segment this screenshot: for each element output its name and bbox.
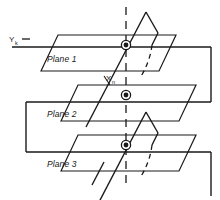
- plane-3-label: Plane 3: [47, 159, 77, 169]
- node-plane-1: [121, 40, 130, 49]
- node-plane-2: [121, 90, 130, 99]
- plane-1-parallelogram: [41, 35, 176, 71]
- plane-stack-diagram: Y k X n Plane 1 Plane 2 Plane 3: [0, 0, 220, 200]
- plane-2-label: Plane 2: [47, 109, 77, 119]
- figure-container: Y k X n Plane 1 Plane 2 Plane 3: [0, 0, 220, 200]
- vertical-plane-top-cap: [146, 12, 158, 33]
- plane-1-label: Plane 1: [47, 54, 77, 64]
- x-node-subscript: n: [112, 79, 115, 85]
- y-axis-subscript: k: [15, 40, 18, 46]
- plane-1-group: [12, 35, 211, 71]
- node-plane-3: [121, 140, 130, 149]
